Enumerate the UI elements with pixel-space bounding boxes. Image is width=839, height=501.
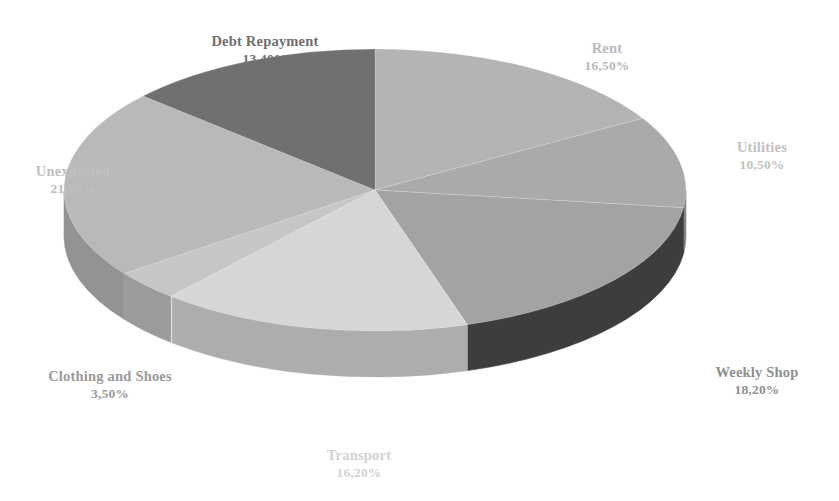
pie-label-unexpected: Unexpected21,70% — [36, 163, 111, 197]
pie-label-value: 13,40% — [211, 51, 318, 67]
pie-label-name: Clothing and Shoes — [48, 368, 172, 386]
pie-label-value: 3,50% — [48, 386, 172, 402]
pie-label-value: 18,20% — [715, 382, 798, 398]
pie-label-value: 16,20% — [327, 465, 391, 481]
pie-label-utilities: Utilities10,50% — [737, 139, 787, 173]
pie-label-value: 10,50% — [737, 157, 787, 173]
pie-label-value: 21,70% — [36, 181, 111, 197]
pie-label-rent: Rent16,50% — [584, 40, 629, 74]
pie-label-value: 16,50% — [584, 58, 629, 74]
pie-label-name: Transport — [327, 447, 391, 465]
pie-label-debt-repayment: Debt Repayment13,40% — [211, 33, 318, 67]
pie-chart-figure: Rent16,50%Utilities10,50%Weekly Shop18,2… — [0, 0, 839, 501]
pie-label-name: Rent — [584, 40, 629, 58]
pie-label-name: Utilities — [737, 139, 787, 157]
pie-label-name: Debt Repayment — [211, 33, 318, 51]
pie-label-weekly-shop: Weekly Shop18,20% — [715, 364, 798, 398]
pie-slice-tops — [64, 49, 686, 331]
pie-label-clothing-and-shoes: Clothing and Shoes3,50% — [48, 368, 172, 402]
pie-chart-svg — [0, 0, 839, 501]
pie-label-name: Unexpected — [36, 163, 111, 181]
pie-label-name: Weekly Shop — [715, 364, 798, 382]
pie-label-transport: Transport16,20% — [327, 447, 391, 481]
